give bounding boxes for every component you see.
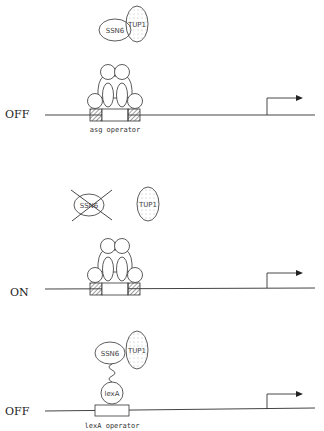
state-label: OFF: [5, 405, 30, 418]
repressor-complex: [88, 65, 143, 109]
operator-half-site: [90, 283, 102, 295]
state-label: OFF: [5, 108, 30, 121]
operator-label: lexA operator: [85, 422, 140, 430]
ssn6-label: SSN6: [101, 350, 120, 358]
operator-label: asg operator: [90, 126, 141, 134]
panel-3: OFF lexA operator lexA SSN6 TUP1: [5, 331, 315, 430]
lexa-operator-box: [95, 405, 129, 416]
transcription-start-arrow-icon: [267, 95, 303, 115]
dna-line: [45, 408, 315, 411]
state-label: ON: [10, 286, 29, 299]
operator-half-site: [128, 283, 140, 295]
transcription-start-arrow-icon: [267, 270, 303, 288]
transcription-start-arrow-icon: [267, 391, 303, 409]
tup1-label: TUP1: [138, 201, 157, 209]
operator-spacer: [102, 109, 128, 121]
tup1-label: TUP1: [127, 21, 146, 29]
repressor-complex: [88, 239, 143, 283]
operator-half-site: [128, 109, 140, 121]
ssn6-label: SSN6: [106, 27, 125, 35]
operator-spacer: [102, 283, 128, 295]
panel-2: ON SSN6 TUP1: [10, 187, 315, 299]
operator-half-site: [90, 109, 102, 121]
dna-line: [45, 288, 315, 289]
panel-1: OFF asg operator SSN6 TUP1: [5, 6, 315, 134]
diagram-canvas: OFF asg operator SSN6 TUP1 ON: [0, 0, 324, 431]
lexa-label: lexA: [104, 390, 119, 398]
tup1-label: TUP1: [127, 347, 146, 355]
